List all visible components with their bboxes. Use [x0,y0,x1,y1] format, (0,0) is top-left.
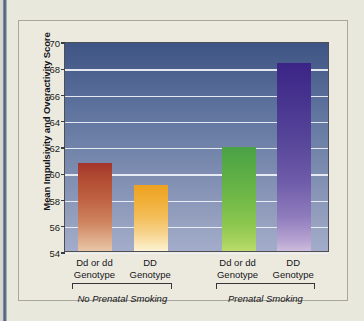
bar [277,63,311,251]
figure-frame: Mean Impulsivity and Overactivity Score … [18,20,348,301]
x-axis-category-label-line: Genotype [273,269,314,281]
y-axis-tick-label: 56 [49,221,60,232]
page-edge-stripe [0,0,7,321]
x-axis-category-label-line: Genotype [217,269,258,281]
x-axis-category-label: Dd or ddGenotype [74,257,115,280]
bar [134,185,168,251]
bar-chart: Mean Impulsivity and Overactivity Score … [19,21,349,302]
y-axis-tick-label: 62 [49,143,60,154]
y-axis-tick-label: 60 [49,169,60,180]
y-axis-tick-mark [61,121,65,122]
group-bracket [216,283,316,289]
x-axis-category-label: DDGenotype [273,257,314,280]
group-label: Prenatal Smoking [228,293,303,304]
y-axis-tick-mark [61,226,65,227]
y-axis-tick-mark [61,95,65,96]
x-axis-category-label-line: Dd or dd [217,257,258,269]
y-axis-tick-mark [61,69,65,70]
y-axis-tick-label: 64 [49,116,60,127]
group-bracket [72,283,172,289]
y-axis-tick-label: 66 [49,90,60,101]
x-axis-category-label: Dd or ddGenotype [217,257,258,280]
x-axis-category-label-line: Dd or dd [74,257,115,269]
y-axis-tick-label: 68 [49,64,60,75]
y-axis-tick-mark [61,252,65,253]
x-axis-category-label-line: DD [130,257,171,269]
bar [222,147,256,251]
y-axis-tick-mark [61,174,65,175]
gridline [65,253,328,254]
x-axis-category-label-line: Genotype [130,269,171,281]
x-axis-category-label-line: Genotype [74,269,115,281]
x-axis-category-label: DDGenotype [130,257,171,280]
group-label: No Prenatal Smoking [77,293,167,304]
y-axis-tick-label: 58 [49,195,60,206]
y-axis-tick-label: 70 [49,38,60,49]
y-axis-tick-mark [61,147,65,148]
x-axis-category-label-line: DD [273,257,314,269]
y-axis-tick-mark [61,42,65,43]
plot-area: 706866646260585654 [64,42,329,252]
y-axis-tick-label: 54 [49,248,60,259]
bar [78,163,112,251]
y-axis-tick-mark [61,200,65,201]
